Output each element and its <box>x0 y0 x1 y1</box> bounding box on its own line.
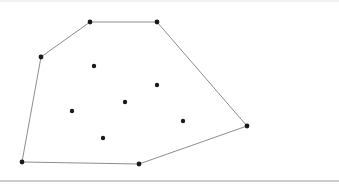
hull-vertex-point <box>39 55 44 60</box>
data-point <box>70 109 74 113</box>
hull-vertex-point <box>88 20 93 25</box>
data-point <box>123 100 127 104</box>
data-point <box>181 119 185 123</box>
data-point <box>155 83 159 87</box>
hull-vertex-point <box>155 20 160 25</box>
hull-vertex-point <box>20 160 25 165</box>
convex-hull-figure <box>0 0 339 187</box>
data-point <box>101 136 105 140</box>
figure-background <box>0 0 339 187</box>
data-point <box>92 64 96 68</box>
hull-vertex-point <box>245 124 250 129</box>
hull-vertex-point <box>137 162 142 167</box>
